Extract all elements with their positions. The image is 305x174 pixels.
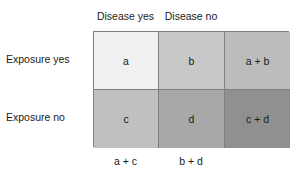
contingency-grid: a b a + b c d c + d — [93, 31, 289, 147]
row-label-exposure-yes: Exposure yes — [6, 52, 90, 66]
column-total-b-plus-d: b + d — [158, 154, 224, 168]
cell-c: c — [94, 90, 159, 148]
column-total-a-plus-c: a + c — [93, 154, 158, 168]
cell-c-plus-d: c + d — [225, 90, 290, 148]
cell-a-plus-b: a + b — [225, 32, 290, 90]
row-label-exposure-no: Exposure no — [6, 110, 90, 124]
cell-d: d — [159, 90, 225, 148]
column-header-disease-yes: Disease yes — [93, 9, 158, 23]
contingency-table-figure: Disease yes Disease no Exposure yes Expo… — [0, 0, 305, 174]
cell-a: a — [94, 32, 159, 90]
cell-b: b — [159, 32, 225, 90]
column-header-disease-no: Disease no — [158, 9, 224, 23]
